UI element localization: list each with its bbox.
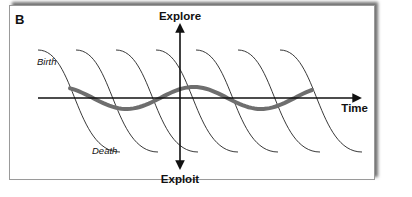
explore-exploit-diagram: B Explore Exploit Time Birth Death bbox=[0, 0, 412, 197]
sigmoid-curve bbox=[76, 50, 158, 152]
time-label: Time bbox=[341, 102, 368, 114]
death-label: Death bbox=[92, 145, 117, 156]
birth-death-curves bbox=[38, 50, 362, 152]
birth-label: Birth bbox=[37, 56, 57, 67]
exploit-label: Exploit bbox=[161, 173, 200, 185]
sigmoid-curve bbox=[156, 50, 238, 152]
sigmoid-curve bbox=[238, 50, 320, 152]
panel-label: B bbox=[15, 12, 24, 27]
explore-label: Explore bbox=[159, 10, 201, 22]
